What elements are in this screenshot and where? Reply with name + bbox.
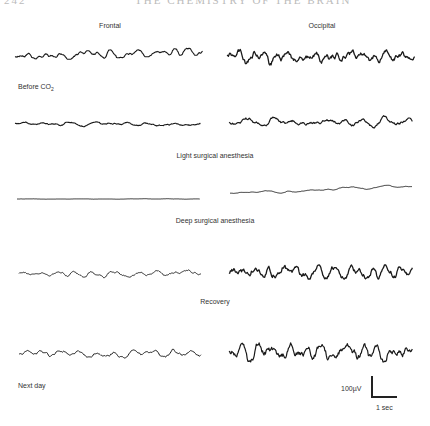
eeg-trace-frontal-row2 — [15, 122, 201, 127]
eeg-trace-frontal-row5 — [19, 349, 201, 358]
eeg-traces — [0, 0, 430, 426]
eeg-trace-occipital-row4 — [229, 265, 412, 279]
eeg-trace-occipital-row2 — [229, 116, 412, 128]
eeg-trace-frontal-row1 — [15, 48, 203, 59]
eeg-trace-occipital-row3 — [230, 185, 412, 193]
scale-voltage-label: 100µV — [341, 385, 361, 392]
eeg-trace-frontal-row4 — [19, 270, 201, 278]
eeg-trace-occipital-row1 — [227, 50, 415, 66]
scale-time-label: 1 sec — [376, 404, 393, 411]
eeg-trace-frontal-row3 — [17, 199, 200, 200]
scale-bar-horizontal — [371, 396, 397, 398]
eeg-trace-occipital-row5 — [229, 343, 412, 362]
scale-bar-vertical — [371, 376, 373, 398]
